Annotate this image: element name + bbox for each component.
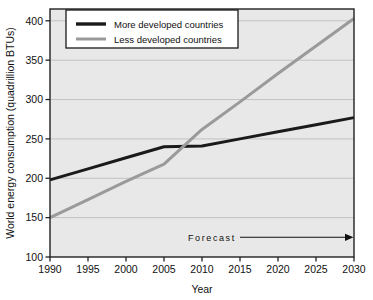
y-tick-label: 250: [25, 133, 43, 145]
x-tick-label: 2025: [304, 263, 328, 275]
x-axis-tick-labels: 199019952000200520102015202020252030: [38, 263, 366, 275]
y-tick-label: 100: [25, 251, 43, 263]
x-tick-label: 2005: [152, 263, 176, 275]
x-axis-title: Year: [191, 283, 213, 295]
x-tick-label: 1990: [38, 263, 62, 275]
y-tick-label: 350: [25, 54, 43, 66]
forecast-label: Forecast: [188, 233, 236, 243]
x-tick-label: 1995: [76, 263, 100, 275]
chart-legend: More developed countriesLess developed c…: [66, 10, 238, 48]
y-tick-label: 400: [25, 15, 43, 27]
y-tick-label: 300: [25, 93, 43, 105]
x-tick-label: 2020: [266, 263, 290, 275]
legend-label-2: Less developed countries: [114, 34, 222, 45]
line-chart: 100150200250300350400 199019952000200520…: [0, 0, 373, 300]
chart-figure: 100150200250300350400 199019952000200520…: [0, 0, 373, 300]
x-tick-label: 2030: [342, 263, 366, 275]
x-tick-label: 2000: [114, 263, 138, 275]
y-tick-label: 200: [25, 172, 43, 184]
y-axis-title: World energy consumption (quadrillion BT…: [4, 27, 16, 239]
y-tick-label: 150: [25, 211, 43, 223]
x-tick-label: 2010: [190, 263, 214, 275]
legend-label-1: More developed countries: [114, 19, 224, 30]
x-tick-label: 2015: [228, 263, 252, 275]
